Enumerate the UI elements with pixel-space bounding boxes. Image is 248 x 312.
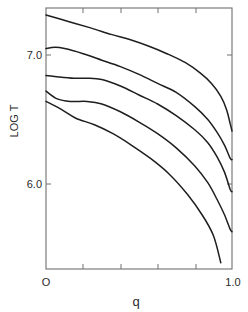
x-tick-label-0: O [42, 276, 51, 288]
curves [46, 15, 232, 263]
y-tick-label-7: 7.0 [27, 49, 42, 61]
curve-2 [46, 47, 232, 159]
y-tick-label-6: 6.0 [27, 178, 42, 190]
curve-3 [46, 76, 232, 192]
chart: 7.0 6.0 O 1.0 LOG T q [0, 0, 248, 312]
x-axis-label: q [132, 294, 139, 309]
x-tick-label-1: 1.0 [225, 276, 240, 288]
y-axis-label: LOG T [8, 104, 20, 137]
curve-5 [46, 101, 221, 262]
curve-4 [46, 91, 232, 232]
curve-1 [46, 15, 232, 131]
